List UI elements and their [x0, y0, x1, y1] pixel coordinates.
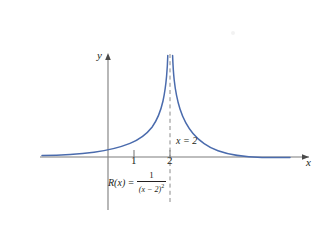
function-formula: R(x) = 1 (x − 2)2: [108, 171, 166, 194]
x-tick-label-1: 1: [131, 155, 137, 166]
curve-left-branch: [42, 56, 168, 156]
y-axis-label: y: [97, 50, 102, 61]
asymptote-label: x = 2: [176, 136, 197, 146]
formula-fraction: 1 (x − 2)2: [137, 171, 166, 194]
x-axis-label: x: [306, 157, 311, 168]
y-axis-arrowhead: [105, 53, 111, 60]
formula-denominator-base: (x − 2): [139, 185, 161, 194]
formula-numerator: 1: [145, 171, 158, 181]
formula-denominator-exponent: 2: [161, 183, 164, 189]
formula-denominator: (x − 2)2: [137, 182, 166, 194]
background-speck: [231, 31, 235, 35]
formula-left-hand-side: R(x): [108, 177, 125, 188]
formula-equals-sign: =: [128, 177, 134, 188]
x-tick-label-2: 2: [167, 155, 173, 166]
